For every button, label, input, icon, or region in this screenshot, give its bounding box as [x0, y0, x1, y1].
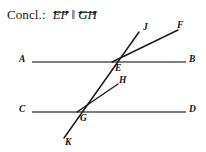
ray-ef [112, 30, 178, 62]
geometry-figure: Concl.: EF ‖ GH [0, 0, 206, 152]
point-label-k: K [65, 138, 71, 148]
point-label-c: C [19, 105, 25, 115]
diagram-canvas [0, 0, 206, 152]
point-label-e: E [115, 64, 121, 74]
point-label-j: J [143, 23, 148, 33]
ray-gh [77, 84, 118, 112]
point-label-b: B [189, 55, 195, 65]
point-label-h: H [119, 76, 126, 86]
point-label-d: D [189, 105, 196, 115]
point-label-g: G [80, 114, 87, 124]
point-label-a: A [19, 55, 25, 65]
transversal-line-jk [64, 32, 139, 138]
point-label-f: F [177, 21, 183, 31]
